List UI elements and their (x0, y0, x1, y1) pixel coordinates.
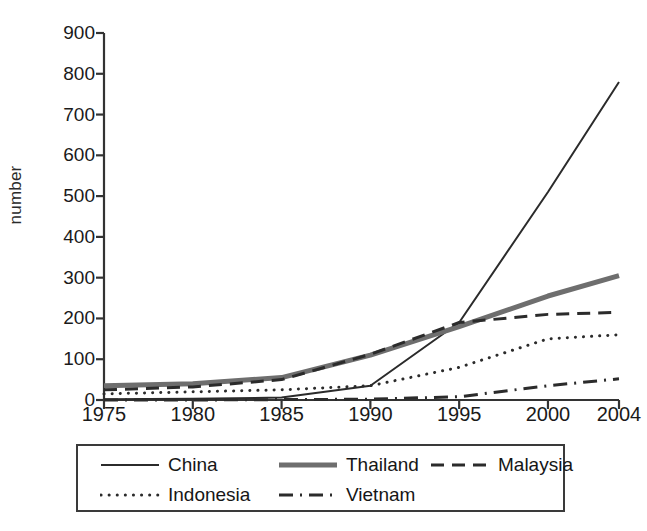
y-tick-label: 700 (37, 105, 95, 124)
chart-legend: ChinaThailandMalaysia IndonesiaVietnam (76, 444, 565, 512)
chart-figure: number 9008007006005004003002001000 1975… (0, 0, 647, 531)
y-tick-label: 100 (37, 349, 95, 368)
y-tick-label: 500 (37, 186, 95, 205)
legend-entry-thailand: Thailand (278, 450, 419, 480)
legend-label: Malaysia (498, 454, 573, 476)
y-tick-label: 600 (37, 145, 95, 164)
legend-entry-china: China (100, 450, 218, 480)
series-line-china (104, 82, 619, 399)
y-axis-title: number (6, 145, 26, 245)
x-tick-label: 1975 (64, 404, 144, 424)
y-tick-label: 200 (37, 308, 95, 327)
legend-entry-malaysia: Malaysia (430, 450, 573, 480)
chart-axes (96, 33, 619, 409)
legend-label: China (168, 454, 218, 476)
legend-entry-indonesia: Indonesia (100, 480, 250, 510)
x-tick-label: 1990 (330, 404, 410, 424)
legend-row-bottom: IndonesiaVietnam (78, 480, 563, 510)
legend-row-top: ChinaThailandMalaysia (78, 450, 563, 480)
legend-line-swatch-dashed (430, 458, 490, 472)
x-tick-label: 1980 (153, 404, 233, 424)
legend-line-swatch-solid (100, 458, 160, 472)
x-tick-label: 2000 (508, 404, 588, 424)
y-tick-label: 800 (37, 64, 95, 83)
legend-line-swatch-dotted (100, 488, 160, 502)
x-tick-label: 1995 (419, 404, 499, 424)
legend-line-swatch-dashdot (278, 488, 338, 502)
legend-label: Vietnam (346, 484, 415, 506)
x-tick-label: 2004 (579, 404, 647, 424)
chart-series-lines (104, 82, 619, 400)
legend-label: Thailand (346, 454, 419, 476)
y-tick-label: 300 (37, 268, 95, 287)
y-tick-label: 400 (37, 227, 95, 246)
legend-entry-vietnam: Vietnam (278, 480, 415, 510)
x-tick-label: 1985 (242, 404, 322, 424)
series-line-malaysia (104, 312, 619, 389)
series-line-thailand (104, 276, 619, 386)
legend-label: Indonesia (168, 484, 250, 506)
legend-line-swatch-solid-thick (278, 458, 338, 472)
y-tick-label: 900 (37, 23, 95, 42)
